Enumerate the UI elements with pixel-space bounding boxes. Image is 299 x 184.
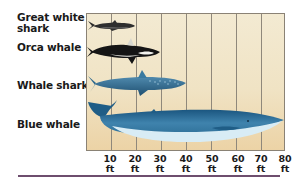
great-white-shark-icon xyxy=(88,20,135,31)
tick-unit: ft xyxy=(273,164,297,174)
orca-whale-icon xyxy=(87,38,160,64)
tick-unit: ft xyxy=(123,164,147,174)
tick-30ft: 30ft xyxy=(148,154,172,174)
tick-80ft: 80ft xyxy=(273,154,297,174)
tick-unit: ft xyxy=(249,164,273,174)
tick-70ft: 70ft xyxy=(249,154,273,174)
tick-unit: ft xyxy=(200,164,224,174)
tick-50ft: 50ft xyxy=(200,154,224,174)
tick-20ft: 20ft xyxy=(123,154,147,174)
tick-unit: ft xyxy=(226,164,250,174)
bottom-divider xyxy=(18,175,280,177)
blue-whale-icon xyxy=(88,100,284,142)
whale-shark-icon xyxy=(88,70,186,96)
tick-40ft: 40ft xyxy=(174,154,198,174)
tick-10ft: 10ft xyxy=(98,154,122,174)
tick-60ft: 60ft xyxy=(226,154,250,174)
tick-unit: ft xyxy=(174,164,198,174)
tick-unit: ft xyxy=(98,164,122,174)
tick-unit: ft xyxy=(148,164,172,174)
